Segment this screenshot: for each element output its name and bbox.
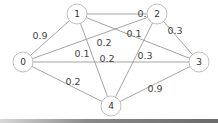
graph-diagram: 0.90.20.30.90.20.20.20.10.10.3 01234: [0, 0, 218, 123]
edge-weight-label-1-4: 0.1: [74, 48, 89, 59]
node-label: 1: [74, 9, 80, 19]
graph-node-1: 1: [67, 4, 87, 24]
edge-weight-label-1-3: 0.1: [126, 28, 141, 39]
edge-weight-label-0-1: 0.9: [32, 30, 47, 41]
graph-node-4: 4: [101, 96, 121, 116]
node-label: 2: [154, 9, 160, 19]
edge-weight-label-0-4: 0.2: [65, 76, 80, 87]
node-label: 0: [20, 57, 26, 67]
graph-node-3: 3: [189, 52, 209, 72]
edge-0-1: [23, 14, 77, 62]
edge-weight-label-2-4: 0.3: [137, 50, 152, 61]
node-label: 4: [108, 101, 114, 111]
graph-node-2: 2: [147, 4, 167, 24]
node-label: 3: [196, 57, 202, 67]
graph-node-0: 0: [13, 52, 33, 72]
edge-weight-label-0-2: 0.2: [96, 37, 111, 48]
edge-weight-label-3-4: 0.9: [147, 83, 162, 94]
edge-weight-label-0-3: 0.2: [99, 53, 114, 64]
bottom-edge-bar: [0, 119, 218, 123]
graph-canvas: 0.90.20.30.90.20.20.20.10.10.3 01234: [0, 0, 218, 123]
edge-weight-label-2-3: 0.3: [167, 25, 182, 36]
